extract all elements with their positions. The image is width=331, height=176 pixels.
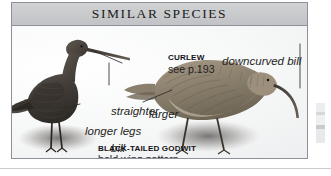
curlew-caption: CURLEW see p.193	[168, 54, 215, 75]
page-edge-mark	[316, 103, 325, 143]
annotation-downcurved-bill: downcurved bill	[222, 55, 301, 67]
godwit-note-line1: bold wing pattern	[98, 154, 196, 158]
annotation-larger: larger	[149, 108, 178, 120]
illustration-plate: straighter bill downcurved bill larger l…	[12, 26, 307, 158]
panel-header: SIMILAR SPECIES	[12, 3, 307, 26]
page-title: SIMILAR SPECIES	[92, 6, 227, 22]
page-canvas: SIMILAR SPECIES	[0, 0, 331, 176]
page-divider-rule	[0, 168, 331, 169]
curlew-name: CURLEW	[168, 54, 215, 63]
annotation-longer-legs: longer legs	[85, 125, 141, 137]
curlew-reference[interactable]: see p.193	[168, 64, 215, 75]
similar-species-panel: SIMILAR SPECIES	[11, 2, 308, 159]
birds-illustration	[12, 26, 307, 158]
godwit-caption: BLACK-TAILED GODWIT bold wing pattern in…	[98, 145, 196, 158]
